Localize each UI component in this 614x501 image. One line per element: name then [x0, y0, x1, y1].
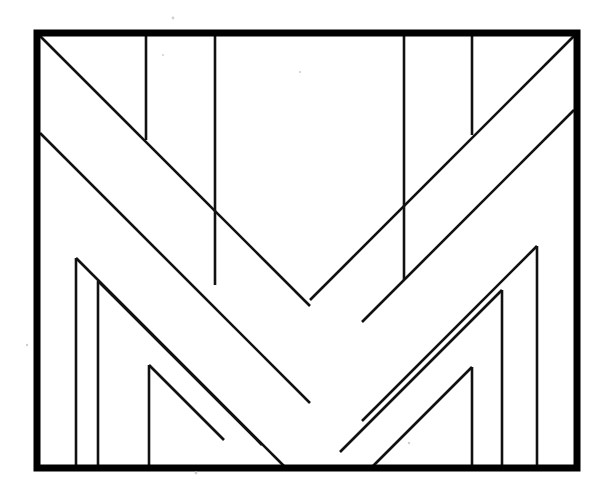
paper-speck-6: [26, 344, 28, 346]
panel-interior: [37, 33, 577, 468]
paper-speck-1: [172, 17, 175, 20]
geometric-line-drawing: [0, 0, 614, 501]
paper-speck-4: [195, 472, 198, 475]
paper-speck-3: [162, 54, 164, 56]
paper-speck-5: [408, 442, 410, 444]
figure-canvas: Chevron Herringbone Geometric Block Blac…: [0, 0, 614, 501]
paper-speck-2: [299, 71, 301, 73]
